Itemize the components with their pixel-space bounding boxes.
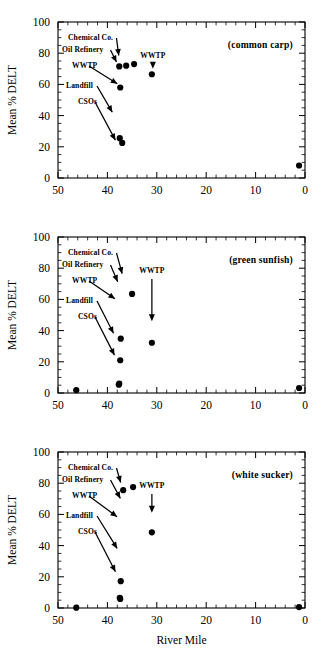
data-point (123, 63, 129, 69)
x-tick-label: 20 (200, 614, 212, 626)
figure-root: 50403020100020406080100Mean % DELT(commo… (0, 0, 322, 655)
y-tick-label: 100 (33, 446, 51, 458)
data-point (149, 529, 155, 535)
x-tick-label: 10 (250, 399, 262, 411)
x-tick-label: 50 (52, 614, 64, 626)
y-tick-label: 20 (39, 571, 51, 583)
annotation-label: Chemical Co. (68, 33, 113, 42)
x-tick-label: 20 (200, 184, 212, 196)
panel-title: (green sunfish) (229, 254, 293, 266)
y-tick-label: 0 (44, 387, 50, 399)
data-point (130, 484, 136, 490)
scatter-plot-white-sucker: 50403020100020406080100Mean % DELTRiver … (0, 430, 322, 655)
y-tick-label: 80 (39, 262, 51, 274)
x-tick-label: 0 (302, 614, 308, 626)
data-point (296, 385, 302, 391)
data-point (118, 578, 124, 584)
annotation-label: WWTP (139, 481, 165, 490)
y-tick-label: 0 (44, 172, 50, 184)
y-axis-title: Mean % DELT (6, 65, 18, 135)
panel-title: (common carp) (228, 39, 293, 51)
annotation-label: Landfill (66, 296, 93, 305)
y-tick-label: 100 (33, 231, 51, 243)
data-point (131, 61, 137, 67)
annotation-arrowhead (108, 293, 115, 299)
annotation-arrowhead (111, 541, 117, 548)
annotation-label: CSOs (78, 97, 97, 106)
x-tick-label: 50 (52, 184, 64, 196)
annotation-label: Chemical Co. (68, 248, 113, 257)
plot-area: 50403020100020406080100Mean % DELT(commo… (6, 16, 308, 196)
y-tick-label: 0 (44, 602, 50, 614)
data-point (149, 71, 155, 77)
y-tick-label: 40 (39, 325, 51, 337)
annotation-arrowhead (150, 62, 156, 69)
panel-title: (white sucker) (232, 469, 293, 481)
data-point (73, 605, 79, 611)
y-tick-label: 80 (39, 477, 51, 489)
y-axis-title: Mean % DELT (6, 495, 18, 565)
annotation-label: Oil Refinery (62, 475, 104, 484)
x-tick-label: 40 (102, 614, 114, 626)
data-point (296, 604, 302, 610)
annotation-label: Landfill (66, 81, 93, 90)
x-tick-label: 10 (250, 184, 262, 196)
y-tick-label: 20 (39, 356, 51, 368)
plot-area: 50403020100020406080100Mean % DELTRiver … (6, 446, 308, 646)
y-axis-title: Mean % DELT (6, 280, 18, 350)
x-tick-label: 0 (302, 399, 308, 411)
scatter-plot-common-carp: 50403020100020406080100Mean % DELT(commo… (0, 0, 322, 215)
y-tick-label: 20 (39, 141, 51, 153)
x-tick-label: 40 (102, 399, 114, 411)
annotation-arrowhead (110, 78, 117, 84)
x-tick-label: 30 (151, 399, 163, 411)
annotation-arrowhead (115, 49, 121, 56)
annotation-label: CSOs (78, 527, 97, 536)
data-point (149, 340, 155, 346)
annotation-label: WWTP (139, 266, 165, 275)
chart-panel-green-sunfish: 50403020100020406080100Mean % DELT(green… (0, 215, 322, 430)
data-point (116, 63, 122, 69)
data-point (120, 487, 126, 493)
data-point (117, 135, 123, 141)
y-tick-label: 80 (39, 47, 51, 59)
y-tick-label: 100 (33, 16, 51, 28)
data-point (116, 381, 122, 387)
y-tick-label: 60 (39, 78, 51, 90)
data-point (129, 291, 135, 297)
x-tick-label: 30 (151, 614, 163, 626)
annotation-arrowhead (110, 511, 117, 517)
x-tick-label: 10 (250, 614, 262, 626)
x-tick-label: 0 (302, 184, 308, 196)
data-point (117, 84, 123, 90)
x-tick-label: 40 (102, 184, 114, 196)
data-point (118, 336, 124, 342)
y-tick-label: 60 (39, 293, 51, 305)
y-tick-label: 60 (39, 508, 51, 520)
annotation-arrowhead (149, 506, 155, 513)
x-tick-label: 50 (52, 399, 64, 411)
annotation-arrowhead (149, 314, 155, 321)
y-tick-label: 40 (39, 110, 51, 122)
annotation-label: WWTP (140, 51, 166, 60)
x-tick-label: 20 (200, 399, 212, 411)
annotation-label: CSOs (78, 312, 97, 321)
data-point (117, 357, 123, 363)
annotation-label: Oil Refinery (62, 45, 104, 54)
plot-area: 50403020100020406080100Mean % DELT(green… (6, 231, 308, 411)
y-tick-label: 40 (39, 540, 51, 552)
chart-panel-common-carp: 50403020100020406080100Mean % DELT(commo… (0, 0, 322, 215)
data-point (117, 595, 123, 601)
scatter-plot-green-sunfish: 50403020100020406080100Mean % DELT(green… (0, 215, 322, 430)
x-tick-label: 30 (151, 184, 163, 196)
annotation-label: Chemical Co. (68, 463, 113, 472)
annotation-label: Landfill (66, 511, 93, 520)
data-point (296, 162, 302, 168)
chart-panel-white-sucker: 50403020100020406080100Mean % DELTRiver … (0, 430, 322, 655)
annotation-arrow (95, 532, 115, 572)
x-axis-title: River Mile (156, 634, 206, 646)
annotation-label: Oil Refinery (62, 260, 104, 269)
data-point (73, 387, 79, 393)
annotation-label: WWTP (72, 491, 98, 500)
